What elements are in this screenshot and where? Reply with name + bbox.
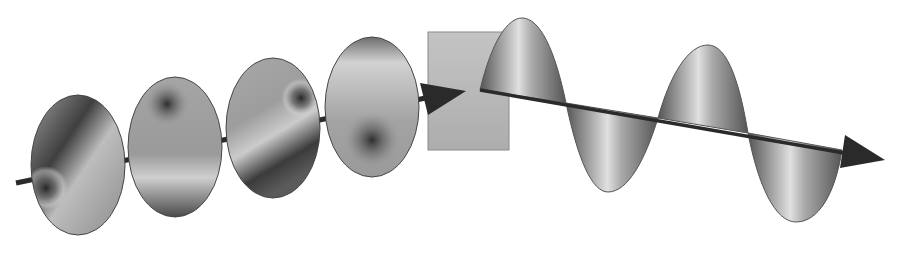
polarization-disk-1 [24,95,125,235]
polarization-disk-2 [128,77,222,217]
polarization-diagram [0,0,908,255]
diagram-canvas [0,0,908,255]
output-arrow-head-icon [840,135,885,168]
polarization-disk-4 [325,37,419,177]
